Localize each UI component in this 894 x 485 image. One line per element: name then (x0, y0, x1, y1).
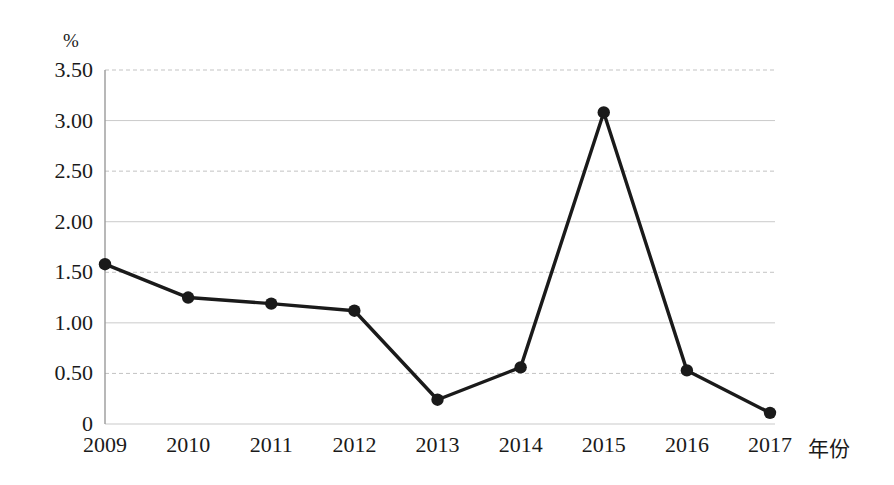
x-axis-title: 年份 (808, 432, 850, 462)
data-point-marker[interactable] (431, 394, 443, 406)
gridlines-group (105, 70, 775, 424)
data-marker-group (99, 106, 776, 419)
y-tick-label: 0.50 (55, 360, 94, 386)
data-line-group (105, 112, 770, 412)
data-line (105, 112, 770, 412)
data-point-marker[interactable] (99, 258, 111, 270)
x-tick-label: 2016 (665, 432, 709, 458)
x-tick-label: 2011 (250, 432, 293, 458)
data-point-marker[interactable] (182, 291, 194, 303)
data-point-marker[interactable] (348, 305, 360, 317)
y-tick-label: 3.00 (55, 108, 94, 134)
y-tick-label: 2.50 (55, 158, 94, 184)
x-tick-label: 2013 (416, 432, 460, 458)
x-tick-label: 2017 (748, 432, 792, 458)
data-point-marker[interactable] (681, 364, 693, 376)
line-chart-canvas (0, 0, 894, 485)
y-axis-unit-label: % (63, 30, 79, 52)
x-tick-label: 2014 (499, 432, 543, 458)
x-tick-label: 2015 (582, 432, 626, 458)
data-point-marker[interactable] (514, 361, 526, 373)
data-point-marker[interactable] (265, 297, 277, 309)
data-point-marker[interactable] (764, 407, 776, 419)
y-tick-label: 2.00 (55, 209, 94, 235)
y-tick-label: 1.50 (55, 259, 94, 285)
x-tick-label: 2012 (332, 432, 376, 458)
x-tick-label: 2009 (83, 432, 127, 458)
y-tick-label: 3.50 (55, 57, 94, 83)
y-tick-label: 1.00 (55, 310, 94, 336)
x-tick-label: 2010 (166, 432, 210, 458)
data-point-marker[interactable] (598, 106, 610, 118)
chart-figure: % 00.501.001.502.002.503.003.50 20092010… (0, 0, 894, 485)
